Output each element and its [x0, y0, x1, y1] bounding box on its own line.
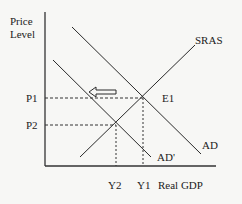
x-axis-label: Real GDP — [158, 179, 203, 191]
ad-as-diagram: Price Level Real GDP AD AD' SRAS P1 P2 Y… — [0, 0, 242, 204]
y-axis-label-line1: Price — [10, 15, 33, 27]
ad-shifted-curve — [53, 60, 151, 157]
y-axis-label-line2: Level — [10, 28, 35, 40]
left-arrow-icon — [89, 87, 116, 97]
ad-label: AD — [202, 139, 218, 151]
y2-label: Y2 — [108, 179, 121, 191]
sras-label: SRAS — [195, 34, 223, 46]
p1-label: P1 — [26, 92, 38, 104]
ad-shifted-label: AD' — [157, 151, 175, 163]
sras-curve — [80, 45, 195, 157]
y1-label: Y1 — [137, 179, 150, 191]
p2-label: P2 — [26, 119, 38, 131]
equilibrium-label: E1 — [162, 92, 174, 104]
